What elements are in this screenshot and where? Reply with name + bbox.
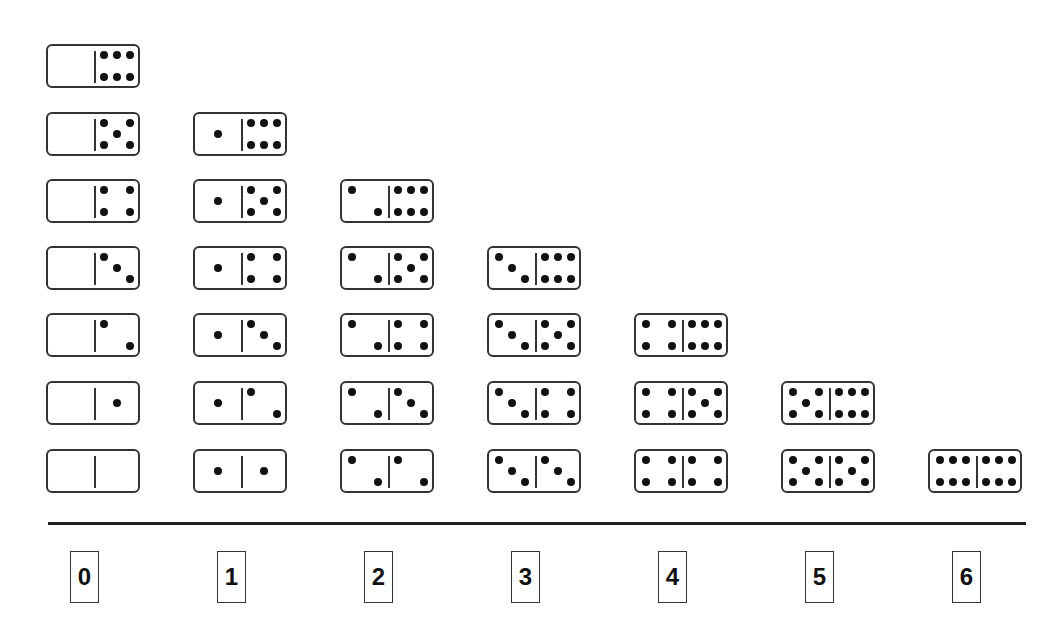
domino-1-3: [193, 313, 287, 357]
pip-dot: [126, 141, 134, 149]
pip-dot: [394, 456, 402, 464]
column-label-5: 5: [805, 551, 834, 603]
pip-dot: [495, 320, 503, 328]
domino-divider: [682, 320, 684, 352]
pip-dot: [835, 456, 843, 464]
pip-dot: [100, 51, 108, 59]
pip-dot: [541, 253, 549, 261]
pip-dot: [348, 456, 356, 464]
pip-dot: [688, 320, 696, 328]
pip-dot: [642, 410, 650, 418]
domino-divider: [829, 456, 831, 488]
pip-dot: [100, 73, 108, 81]
pip-dot: [714, 342, 722, 350]
pip-dot: [495, 253, 503, 261]
pip-dot: [214, 467, 222, 475]
pip-dot: [113, 130, 121, 138]
pip-dot: [495, 388, 503, 396]
pip-dot: [802, 399, 810, 407]
pip-dot: [260, 119, 268, 127]
pip-dot: [567, 275, 575, 283]
domino-5-6: [781, 381, 875, 425]
pip-dot: [247, 119, 255, 127]
pip-dot: [567, 342, 575, 350]
pip-dot: [835, 388, 843, 396]
domino-3-5: [487, 313, 581, 357]
domino-2-4: [340, 313, 434, 357]
domino-0-2: [46, 313, 140, 357]
pip-dot: [508, 264, 516, 272]
domino-divider: [388, 456, 390, 488]
domino-1-2: [193, 381, 287, 425]
domino-2-6: [340, 179, 434, 223]
pip-dot: [113, 51, 121, 59]
pip-dot: [949, 478, 957, 486]
pip-dot: [521, 478, 529, 486]
pip-dot: [642, 456, 650, 464]
domino-0-5: [46, 112, 140, 156]
pip-dot: [567, 253, 575, 261]
pip-dot: [420, 410, 428, 418]
column-label-4: 4: [658, 551, 687, 603]
pip-dot: [247, 253, 255, 261]
domino-divider: [535, 320, 537, 352]
pip-dot: [348, 388, 356, 396]
pip-dot: [273, 342, 281, 350]
column-label-2: 2: [364, 551, 393, 603]
pip-dot: [420, 342, 428, 350]
pip-dot: [554, 331, 562, 339]
pip-dot: [394, 275, 402, 283]
pip-dot: [962, 456, 970, 464]
pip-dot: [247, 186, 255, 194]
pip-dot: [100, 253, 108, 261]
pip-dot: [214, 331, 222, 339]
pip-dot: [113, 264, 121, 272]
pip-dot: [100, 186, 108, 194]
pip-dot: [567, 388, 575, 396]
pip-dot: [541, 342, 549, 350]
domino-0-6: [46, 44, 140, 88]
pip-dot: [394, 342, 402, 350]
pip-dot: [214, 130, 222, 138]
pip-dot: [567, 478, 575, 486]
domino-divider: [682, 456, 684, 488]
pip-dot: [1008, 456, 1016, 464]
pip-dot: [714, 410, 722, 418]
pip-dot: [374, 208, 382, 216]
pip-dot: [995, 456, 1003, 464]
domino-divider: [94, 186, 96, 218]
pip-dot: [789, 388, 797, 396]
pip-dot: [273, 186, 281, 194]
pip-dot: [815, 478, 823, 486]
pip-dot: [714, 478, 722, 486]
domino-0-0: [46, 449, 140, 493]
pip-dot: [374, 275, 382, 283]
pip-dot: [214, 399, 222, 407]
domino-1-5: [193, 179, 287, 223]
pip-dot: [394, 253, 402, 261]
pip-dot: [668, 410, 676, 418]
pip-dot: [407, 399, 415, 407]
domino-divider: [94, 253, 96, 285]
pip-dot: [126, 342, 134, 350]
pip-dot: [508, 467, 516, 475]
domino-1-4: [193, 246, 287, 290]
pip-dot: [541, 410, 549, 418]
pip-dot: [802, 467, 810, 475]
pip-dot: [273, 119, 281, 127]
pip-dot: [126, 51, 134, 59]
domino-0-4: [46, 179, 140, 223]
pip-dot: [273, 410, 281, 418]
pip-dot: [508, 399, 516, 407]
domino-divider: [241, 186, 243, 218]
domino-divider: [94, 51, 96, 83]
pip-dot: [214, 197, 222, 205]
pip-dot: [982, 478, 990, 486]
column-label-1: 1: [217, 551, 246, 603]
pip-dot: [521, 342, 529, 350]
pip-dot: [374, 342, 382, 350]
pip-dot: [420, 253, 428, 261]
pip-dot: [273, 141, 281, 149]
pip-dot: [126, 208, 134, 216]
pip-dot: [260, 141, 268, 149]
